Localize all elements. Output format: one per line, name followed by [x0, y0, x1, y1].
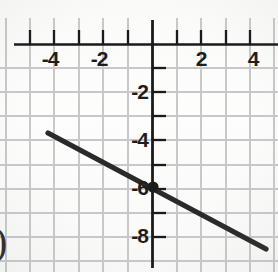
x-tick-label-2: 2	[188, 48, 214, 69]
x-tick-label-4: 4	[240, 48, 266, 69]
y-tick-label-minus6: -6	[104, 177, 148, 198]
x-axis-ticks	[30, 30, 250, 44]
graph-figure: -4 -2 2 4 -2 -4 -6 -8 )	[0, 0, 278, 272]
y-tick-label-minus2: -2	[104, 81, 148, 102]
x-tick-label-minus4: -4	[33, 48, 67, 69]
y-axis-ticks	[152, 68, 166, 237]
plotted-line	[48, 133, 266, 249]
x-tick-label-minus2: -2	[82, 48, 116, 69]
y-intercept-point	[147, 181, 158, 192]
answer-choice-marker: )	[0, 222, 7, 262]
y-tick-label-minus8: -8	[104, 225, 148, 246]
y-tick-label-minus4: -4	[104, 129, 148, 150]
